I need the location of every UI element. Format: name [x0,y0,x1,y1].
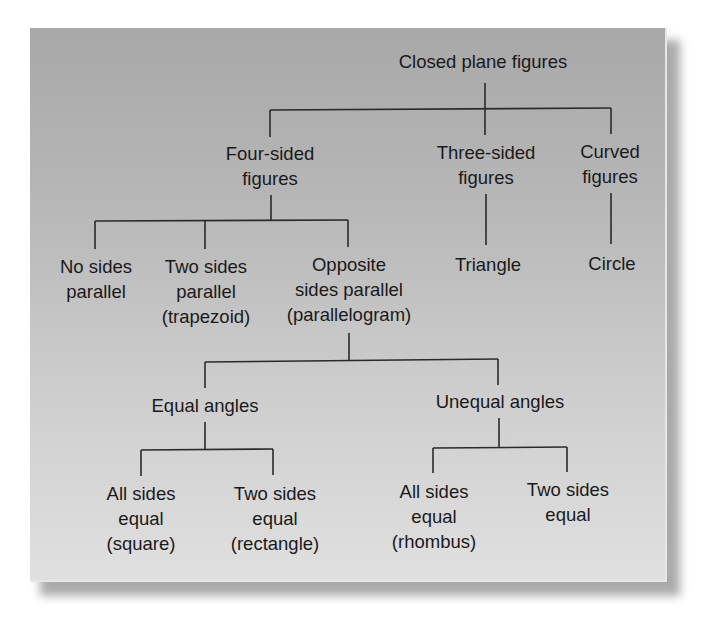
node-two-sides-equal: Two sides equal [527,477,609,527]
node-label-line1: Curved [580,139,640,164]
node-label-line1: No sides [60,254,132,279]
angles-bar [205,359,498,362]
node-label-line1: All sides [392,479,476,504]
node-no-sides-parallel: No sides parallel [60,254,132,304]
node-label-line3: (square) [107,531,176,556]
node-label-line1: Opposite [287,252,411,277]
node-label-line3: (rectangle) [231,531,319,556]
node-equal-angles: Equal angles [152,393,259,418]
node-label-line1: Four-sided [226,141,314,166]
equal-angles-bar [141,449,273,450]
node-label: Closed plane figures [399,49,568,74]
node-label-line1: Two sides [231,481,319,506]
node-three-sided-figures: Three-sided figures [437,140,536,190]
node-closed-plane-figures: Closed plane figures [399,49,568,74]
node-label-line1: Three-sided [437,140,536,165]
node-label-line1: All sides [107,481,176,506]
node-rectangle: Two sides equal (rectangle) [231,481,319,556]
node-triangle: Triangle [455,252,521,277]
node-label: Triangle [455,252,521,277]
node-label-line2: equal [231,506,319,531]
node-opposite-sides-parallel: Opposite sides parallel (parallelogram) [287,252,411,327]
node-curved-figures: Curved figures [580,139,640,189]
node-label-line1: Two sides [162,254,250,279]
node-four-sided-figures: Four-sided figures [226,141,314,191]
node-label: Unequal angles [436,389,565,414]
node-label-line2: equal [527,502,609,527]
node-label-line1: Two sides [527,477,609,502]
node-label-line2: equal [107,506,176,531]
node-label-line3: (trapezoid) [162,304,250,329]
node-label-line2: figures [580,164,640,189]
unequal-angles-bar [433,447,567,448]
node-label-line2: parallel [162,279,250,304]
node-two-sides-parallel: Two sides parallel (trapezoid) [162,254,250,329]
node-label-line2: equal [392,504,476,529]
node-unequal-angles: Unequal angles [436,389,565,414]
node-label-line2: parallel [60,279,132,304]
node-label-line3: (rhombus) [392,529,476,554]
node-label: Equal angles [152,393,259,418]
four-sided-bar [95,220,348,221]
node-circle: Circle [588,251,635,276]
node-label-line2: figures [226,166,314,191]
level1-bar [270,108,611,110]
node-label-line3: (parallelogram) [287,302,411,327]
node-label-line2: sides parallel [287,277,411,302]
node-label-line2: figures [437,165,536,190]
node-rhombus: All sides equal (rhombus) [392,479,476,554]
node-label: Circle [588,251,635,276]
node-square: All sides equal (square) [107,481,176,556]
